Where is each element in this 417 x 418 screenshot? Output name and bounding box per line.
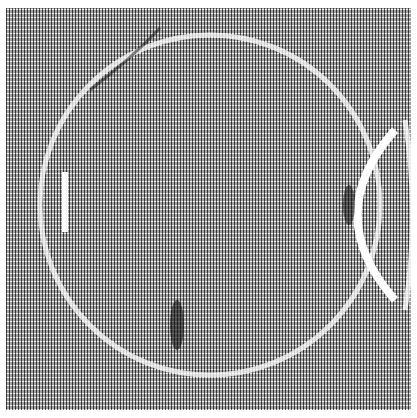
left-light-bar <box>62 172 68 232</box>
dark-smudge-bottom <box>170 300 184 350</box>
large-arc-outline <box>40 35 380 375</box>
image-canvas <box>0 0 417 418</box>
dark-smudge-right <box>343 185 355 225</box>
texture-overlay <box>0 0 417 418</box>
